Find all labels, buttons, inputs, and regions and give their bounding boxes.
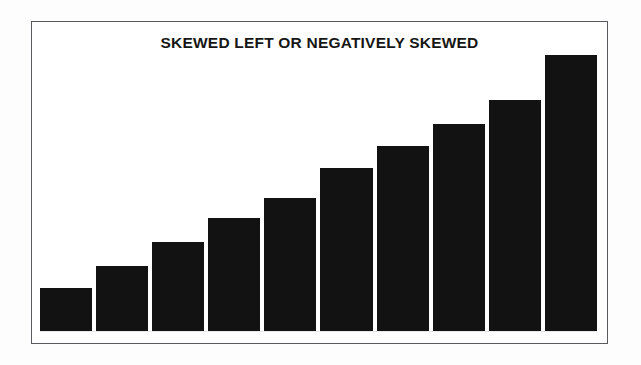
bar-3 [152,242,204,331]
x-axis-baseline [40,331,597,332]
plot-area [40,58,597,338]
bar-6 [320,168,372,331]
bar-series [40,58,597,331]
chart-figure: SKEWED LEFT OR NEGATIVELY SKEWED [31,21,608,344]
bar-5 [264,198,316,331]
bar-1 [40,288,92,331]
bar-8 [433,124,485,331]
bar-4 [208,218,260,331]
bar-2 [96,266,148,331]
chart-title: SKEWED LEFT OR NEGATIVELY SKEWED [32,33,607,52]
bar-10 [545,55,597,331]
bar-7 [377,146,429,331]
bar-9 [489,100,541,331]
